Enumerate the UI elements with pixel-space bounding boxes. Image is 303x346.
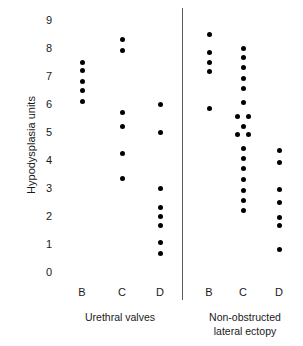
data-point <box>120 48 125 53</box>
data-point <box>207 50 212 55</box>
panel-caption-urethral-valves: Urethral valves <box>58 310 182 324</box>
data-point <box>246 132 251 137</box>
data-point <box>207 69 212 74</box>
data-point <box>158 240 163 245</box>
data-point <box>241 46 246 51</box>
data-point <box>235 132 240 137</box>
data-point <box>241 76 246 81</box>
data-point <box>241 55 246 60</box>
data-point <box>158 205 163 210</box>
data-point <box>120 151 125 156</box>
data-point <box>158 102 163 107</box>
data-point <box>277 223 282 228</box>
data-point <box>241 146 246 151</box>
data-point <box>158 223 163 228</box>
data-point <box>80 68 85 73</box>
x-tick-urethral-valves-d: D <box>146 286 174 298</box>
data-point <box>80 79 85 84</box>
data-point <box>277 160 282 165</box>
data-point <box>80 60 85 65</box>
y-tick-3: 3 <box>30 182 52 194</box>
data-point <box>158 214 163 219</box>
data-point <box>120 110 125 115</box>
panel-caption-non-obstructed: Non-obstructed lateral ectopy <box>190 310 300 338</box>
data-point <box>241 166 246 171</box>
x-tick-urethral-valves-b: B <box>68 286 96 298</box>
y-tick-4: 4 <box>30 154 52 166</box>
data-point <box>158 130 163 135</box>
data-point <box>241 177 246 182</box>
data-point <box>120 176 125 181</box>
x-tick-non-obstructed-lateral-ectopy-d: D <box>265 286 293 298</box>
panel-caption-line-1: Non-obstructed <box>190 310 300 324</box>
y-tick-2: 2 <box>30 210 52 222</box>
y-tick-8: 8 <box>30 42 52 54</box>
y-tick-7: 7 <box>30 70 52 82</box>
data-point <box>241 188 246 193</box>
y-tick-0: 0 <box>30 266 52 278</box>
y-tick-9: 9 <box>30 14 52 26</box>
data-point <box>246 114 251 119</box>
data-point <box>235 114 240 119</box>
plot-area <box>58 8 303 280</box>
y-tick-5: 5 <box>30 126 52 138</box>
y-tick-1: 1 <box>30 238 52 250</box>
data-point <box>158 251 163 256</box>
data-point <box>277 200 282 205</box>
data-point <box>80 88 85 93</box>
data-point <box>277 148 282 153</box>
data-point <box>120 37 125 42</box>
data-point <box>241 208 246 213</box>
data-point <box>207 60 212 65</box>
x-tick-non-obstructed-lateral-ectopy-b: B <box>195 286 223 298</box>
data-point <box>207 106 212 111</box>
x-tick-urethral-valves-c: C <box>108 286 136 298</box>
scatter-plot-figure: Hypodysplasia units 0123456789 BCDBCD Ur… <box>0 0 303 346</box>
panel-caption-line-2: lateral ectopy <box>190 324 300 338</box>
data-point <box>80 99 85 104</box>
data-point <box>241 65 246 70</box>
data-point <box>241 124 246 129</box>
data-point <box>277 215 282 220</box>
data-point <box>277 187 282 192</box>
data-point <box>241 100 246 105</box>
x-tick-non-obstructed-lateral-ectopy-c: C <box>229 286 257 298</box>
data-point <box>241 198 246 203</box>
data-point <box>158 186 163 191</box>
y-tick-6: 6 <box>30 98 52 110</box>
data-point <box>120 124 125 129</box>
data-point <box>241 156 246 161</box>
data-point <box>207 32 212 37</box>
data-point <box>241 86 246 91</box>
data-point <box>277 247 282 252</box>
